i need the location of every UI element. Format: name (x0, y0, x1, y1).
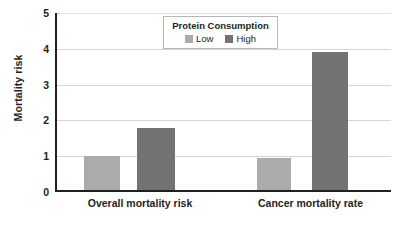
y-tick-0: 0 (21, 186, 49, 198)
legend-item-high[interactable]: High (225, 33, 256, 44)
y-axis-tick-labels: 0 1 2 3 4 5 (19, 13, 49, 192)
legend-items: Low High (164, 33, 277, 44)
y-tick-5: 5 (21, 7, 49, 19)
y-tick-2: 2 (21, 114, 49, 126)
legend-title: Protein Consumption (164, 20, 277, 33)
legend-item-low[interactable]: Low (185, 33, 213, 44)
category-label-cancer-mortality-rate: Cancer mortality rate (228, 197, 393, 209)
category-label-overall-mortality-risk: Overall mortality risk (55, 197, 225, 209)
y-tick-4: 4 (21, 43, 49, 55)
y-tick-1: 1 (21, 150, 49, 162)
legend: Protein Consumption Low High (163, 16, 278, 49)
legend-label-high: High (236, 33, 256, 44)
legend-label-low: Low (196, 33, 213, 44)
y-tick-3: 3 (21, 79, 49, 91)
bar-chart: Mortality risk 0 1 2 3 4 5 Overall morta… (0, 0, 401, 225)
legend-swatch-low-icon (185, 35, 193, 43)
legend-swatch-high-icon (225, 35, 233, 43)
